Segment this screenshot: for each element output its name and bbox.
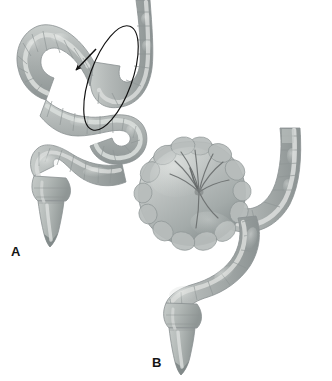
panel-label-b: B: [152, 356, 161, 369]
sigmoid-volvulus-illustration: [0, 0, 332, 381]
panel-label-a: A: [11, 245, 20, 258]
illustration-canvas: A B: [0, 0, 332, 381]
